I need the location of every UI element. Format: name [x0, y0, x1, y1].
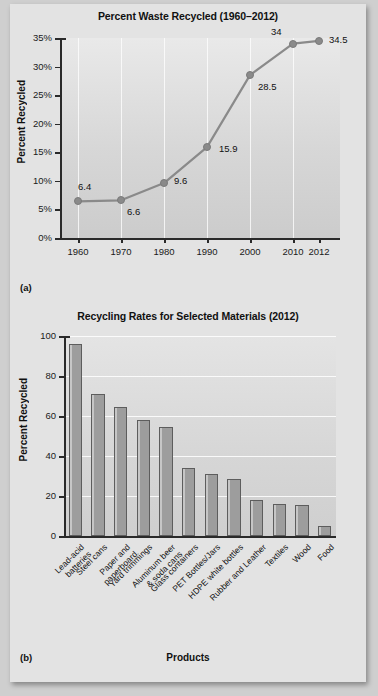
- chart-b-y-tick: [59, 416, 64, 418]
- chart-a-x-tick: [293, 238, 295, 243]
- chart-a-x-tick: [121, 238, 123, 243]
- chart-a-y-tick-label: 10%: [10, 175, 52, 186]
- chart-b-bar-9: [273, 504, 287, 536]
- chart-b-y-tick-label: 0: [10, 530, 56, 541]
- chart-a-y-tick-label: 0%: [10, 232, 52, 243]
- chart-percent-waste-recycled: Percent Waste Recycled (1960–2012) Perce…: [10, 10, 366, 310]
- chart-a-x-tick: [319, 238, 321, 243]
- chart-a-y-tick-label: 30%: [10, 61, 52, 72]
- chart-b-gridline-80: [64, 376, 336, 377]
- chart-b-bar-1: [91, 394, 105, 536]
- chart-b-y-tick-label: 20: [10, 490, 56, 501]
- chart-a-y-tick-label: 20%: [10, 118, 52, 129]
- figure-page: Percent Waste Recycled (1960–2012) Perce…: [0, 0, 378, 696]
- chart-b-bar-6: [205, 474, 219, 536]
- chart-a-x-tick-label: 1990: [191, 246, 223, 257]
- chart-a-x-tick-label: 1970: [105, 246, 137, 257]
- chart-a-data-label-1960: 6.4: [78, 181, 91, 192]
- chart-b-x-tick-label-10: Wood: [290, 542, 313, 565]
- chart-b-y-tick: [59, 336, 64, 338]
- chart-a-data-label-2010: 34: [271, 26, 282, 37]
- chart-a-point-2010: [289, 40, 297, 48]
- chart-a-data-label-1990: 15.9: [219, 143, 238, 154]
- chart-b-bar-3: [137, 420, 151, 536]
- chart-a-x-tick-label: 1960: [62, 246, 94, 257]
- chart-b-bar-4: [159, 427, 173, 536]
- chart-b-gridline-20: [64, 496, 336, 497]
- chart-b-gridline-60: [64, 416, 336, 417]
- chart-b-top-cap: [64, 336, 70, 338]
- chart-a-x-tick-label: 2012: [303, 246, 335, 257]
- chart-a-point-1960: [74, 197, 82, 205]
- chart-b-y-tick-label: 60: [10, 410, 56, 421]
- chart-a-y-tick-label: 35%: [10, 32, 52, 43]
- chart-b-bar-0: [69, 344, 83, 536]
- chart-b-y-tick-label: 80: [10, 370, 56, 381]
- chart-a-point-1970: [117, 196, 125, 204]
- chart-a-y-tick: [55, 238, 60, 240]
- panel-b-tag: (b): [20, 652, 32, 663]
- chart-b-bar-10: [295, 505, 309, 536]
- chart-a-line-series: [60, 38, 340, 238]
- chart-b-x-axis: [64, 536, 336, 538]
- chart-a-data-label-1980: 9.6: [174, 175, 187, 186]
- chart-b-y-tick: [59, 456, 64, 458]
- chart-a-data-label-2012: 34.5: [329, 34, 348, 45]
- chart-a-data-label-2000: 28.5: [258, 81, 277, 92]
- chart-b-gridline-100: [64, 336, 336, 337]
- chart-b-bar-7: [227, 479, 241, 536]
- chart-a-x-tick-label: 2000: [234, 246, 266, 257]
- chart-b-y-tick: [59, 496, 64, 498]
- chart-b-x-tick-label-11: Food: [315, 542, 336, 563]
- chart-a-point-1980: [160, 179, 168, 187]
- chart-a-point-2012: [315, 37, 323, 45]
- figure-card: Percent Waste Recycled (1960–2012) Perce…: [10, 4, 366, 682]
- chart-a-x-tick-label: 1980: [148, 246, 180, 257]
- chart-b-bar-11: [318, 526, 332, 536]
- chart-b-y-tick-label: 100: [10, 330, 56, 341]
- chart-b-x-tick-label-9: Textiles: [263, 542, 290, 569]
- chart-b-y-axis: [64, 336, 66, 536]
- chart-a-x-tick: [164, 238, 166, 243]
- chart-a-y-tick-label: 5%: [10, 203, 52, 214]
- chart-a-y-tick-label: 15%: [10, 146, 52, 157]
- panel-a-tag: (a): [20, 282, 32, 293]
- chart-a-x-tick: [207, 238, 209, 243]
- chart-b-x-axis-label: Products: [10, 652, 366, 663]
- chart-b-bar-8: [250, 500, 264, 536]
- chart-a-x-tick: [78, 238, 80, 243]
- chart-b-bar-5: [182, 468, 196, 536]
- chart-b-y-tick: [59, 376, 64, 378]
- chart-a-point-2000: [246, 71, 254, 79]
- chart-b-gridline-40: [64, 456, 336, 457]
- chart-a-data-label-1970: 6.6: [127, 206, 140, 217]
- chart-b-y-tick-label: 40: [10, 450, 56, 461]
- chart-a-point-1990: [203, 143, 211, 151]
- chart-a-title: Percent Waste Recycled (1960–2012): [10, 10, 366, 22]
- chart-b-y-tick: [59, 536, 64, 538]
- chart-recycling-rates-materials: Recycling Rates for Selected Materials (…: [10, 310, 366, 682]
- chart-a-y-tick-label: 25%: [10, 89, 52, 100]
- chart-a-x-axis: [60, 238, 340, 240]
- chart-a-x-tick: [250, 238, 252, 243]
- chart-b-title: Recycling Rates for Selected Materials (…: [10, 310, 366, 322]
- chart-b-bar-2: [114, 407, 128, 536]
